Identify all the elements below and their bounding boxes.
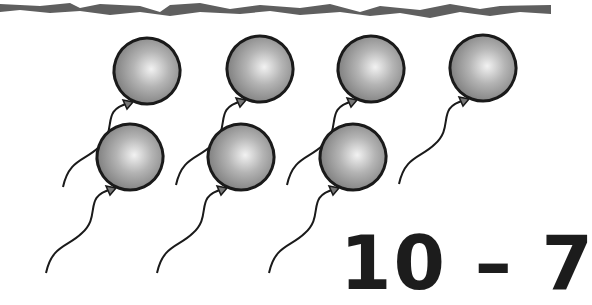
balloon-top-4: [399, 26, 525, 184]
subtraction-expression: 10 – 7: [340, 226, 592, 300]
balloon-bottom-2: [157, 115, 283, 273]
balloon-bottom-1: [46, 115, 172, 273]
torn-border: [0, 3, 551, 18]
